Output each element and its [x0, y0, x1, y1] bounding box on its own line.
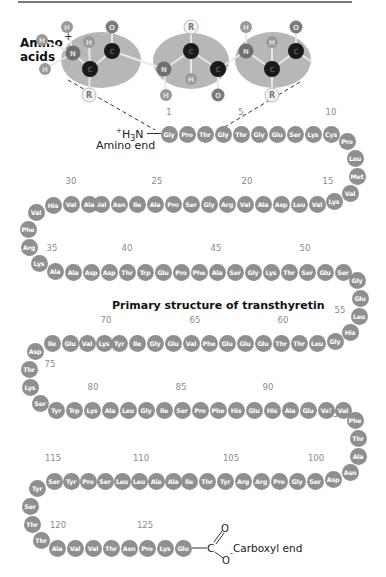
residue-85-ser: Ser — [174, 402, 191, 419]
residue-120-ala: Ala — [49, 540, 66, 557]
residue-33-phe: Phe — [20, 221, 37, 238]
residue-64-phe: Phe — [201, 335, 218, 352]
charge-plus: + — [64, 31, 72, 42]
atom-n: N — [157, 62, 172, 77]
residue-87-phe: Phe — [210, 402, 227, 419]
residue-55-leu: Leu — [351, 308, 368, 325]
residue-112-ser: Ser — [97, 473, 114, 490]
diagram-title: Primary structure of transthyretin — [112, 299, 325, 312]
svg-text:H: H — [269, 39, 275, 47]
atom-h: H — [240, 21, 252, 33]
atom-h: H — [39, 63, 51, 75]
residue-11-pro: Pro — [339, 133, 356, 150]
residue-69-tyr: Tyr — [111, 335, 128, 352]
residue-16-val: Val — [309, 196, 326, 213]
residue-number-label: 15 — [323, 176, 334, 186]
residue-110-leu: Leu — [131, 473, 148, 490]
atom-c: C — [288, 43, 304, 59]
residue-27-asn: Asn — [111, 196, 128, 213]
residue-31-his: His — [45, 197, 62, 214]
atom-r: R — [82, 88, 96, 102]
svg-text:O: O — [221, 523, 229, 534]
residue-116-tyr: Tyr — [29, 480, 46, 497]
residue-91-ala: Ala — [282, 402, 299, 419]
residue-37-ala: Ala — [65, 264, 82, 281]
residue-15-lys: Lys — [326, 193, 343, 210]
residue-62-glu: Glu — [237, 335, 254, 352]
residue-6-gly: Gly — [251, 126, 268, 143]
svg-text:R: R — [269, 91, 275, 100]
atom-h: H — [36, 34, 48, 46]
svg-text:H: H — [188, 76, 194, 84]
residue-97-ala: Ala — [350, 448, 367, 465]
residue-50-ser: Ser — [299, 264, 316, 281]
residue-99-asp: Asp — [325, 471, 342, 488]
svg-text:O: O — [109, 24, 115, 32]
residue-126-lys: Lys — [157, 540, 174, 557]
svg-text:O: O — [222, 555, 230, 566]
residue-number-label: 45 — [211, 243, 222, 253]
svg-text:C: C — [215, 66, 220, 74]
residue-34-arg: Arg — [21, 239, 38, 256]
residue-42-glu: Glu — [155, 264, 172, 281]
residue-number-label: 5 — [238, 107, 243, 117]
carboxyl-end-label: Carboxyl end — [233, 542, 302, 554]
residue-47-gly: Gly — [245, 264, 262, 281]
residue-1-gly: Gly — [161, 126, 178, 143]
residue-80-lys: Lys — [84, 402, 101, 419]
residue-53-gly: Gly — [349, 272, 366, 289]
residue-79-trp: Trp — [66, 402, 83, 419]
atom-c: C — [210, 61, 226, 77]
residue-108-ala: Ala — [165, 473, 182, 490]
residue-39-asp: Asp — [101, 264, 118, 281]
atom-c: C — [264, 61, 280, 77]
residue-95-phe: Phe — [347, 412, 364, 429]
residue-number-label: 95 — [328, 409, 339, 419]
residue-2-pro: Pro — [179, 126, 196, 143]
residue-number-label: 120 — [50, 520, 66, 530]
residue-127-glu: Glu — [175, 540, 192, 557]
residue-117-ser: Ser — [22, 498, 39, 515]
residue-26-ile: Ile — [129, 196, 146, 213]
residue-77-ser: Ser — [32, 395, 49, 412]
residue-70-lys: Lys — [96, 335, 113, 352]
atom-c: C — [104, 43, 120, 59]
residue-20-val: Val — [237, 196, 254, 213]
residue-114-tyr: Tyr — [63, 473, 80, 490]
residue-122-val: Val — [85, 540, 102, 557]
svg-text:R: R — [188, 23, 194, 32]
residue-65-val: Val — [183, 335, 200, 352]
residue-10-cys: Cys — [323, 126, 340, 143]
residue-124-asn: Asn — [121, 540, 138, 557]
residue-number-label: 85 — [176, 382, 187, 392]
atom-h: H — [160, 89, 172, 101]
residue-98-asn: Asn — [342, 464, 359, 481]
residue-number-label: 50 — [300, 243, 311, 253]
residue-96-thr: Thr — [350, 430, 367, 447]
atom-r: R — [265, 88, 279, 102]
svg-text:H: H — [86, 39, 92, 47]
residue-number-label: 115 — [45, 453, 61, 463]
residue-51-glu: Glu — [317, 264, 334, 281]
svg-text:H: H — [39, 37, 45, 45]
residue-5-thr: Thr — [233, 126, 250, 143]
residue-103-arg: Arg — [253, 473, 270, 490]
residue-number-label: 105 — [223, 453, 239, 463]
residue-118-thr: Thr — [24, 516, 41, 533]
residue-76-lys: Lys — [22, 379, 39, 396]
atom-h: H — [83, 36, 95, 48]
svg-text:C: C — [207, 542, 215, 555]
residue-73-ile: Ile — [44, 335, 61, 352]
residue-57-gly: Gly — [327, 333, 344, 350]
residue-45-ala: Ala — [209, 264, 226, 281]
residue-38-asp: Asp — [83, 264, 100, 281]
residue-number-label: 25 — [152, 176, 163, 186]
residue-number-label: 125 — [137, 520, 153, 530]
residue-number-label: 110 — [133, 453, 149, 463]
residue-100-ser: Ser — [307, 473, 324, 490]
atom-o: O — [106, 21, 119, 34]
residue-67-gly: Gly — [147, 335, 164, 352]
residue-number-label: 75 — [45, 359, 56, 369]
residue-44-phe: Phe — [191, 264, 208, 281]
residue-92-glu: Glu — [300, 402, 317, 419]
